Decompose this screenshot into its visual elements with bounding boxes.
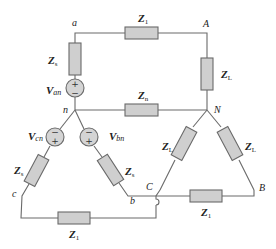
- label-zs-b: Zs: [124, 165, 135, 179]
- voltage-source-van: + −: [66, 79, 84, 98]
- label-zl-a: ZL: [220, 68, 232, 82]
- node-A-label: A: [202, 18, 210, 29]
- impedance-labels: Z1 Zs Zn ZL Zs Zs ZL ZL Z1 Z1: [13, 12, 256, 242]
- voltage-source-vbn: − +: [80, 127, 98, 146]
- label-zl-b: ZL: [244, 140, 256, 154]
- node-b-label: b: [130, 195, 135, 206]
- impedance-zn: [125, 104, 158, 116]
- impedance-zs-a: [69, 43, 81, 75]
- node-B-label: B: [259, 182, 265, 193]
- wire-a-to-z1: [75, 33, 125, 43]
- node-n-label: n: [63, 104, 68, 115]
- wire-z1-to-A: [158, 33, 207, 58]
- wire-vbn-to-zs: [94, 146, 102, 157]
- label-zs-c: Zs: [13, 164, 24, 178]
- wire-vcn-to-zs: [44, 146, 50, 157]
- impedance-zl-b: [217, 127, 243, 161]
- node-C-label: C: [146, 181, 153, 192]
- label-zl-c: ZL: [161, 140, 173, 154]
- voltage-source-vcn: − +: [46, 127, 64, 146]
- node-a-label: a: [72, 17, 77, 28]
- label-z1-cb: Z1: [200, 206, 212, 220]
- wire-N-to-zl-c: [193, 110, 207, 127]
- label-vcn: Vcn: [28, 130, 43, 143]
- van-bottom-sign: −: [71, 88, 79, 98]
- label-z1-bottom: Z1: [68, 228, 80, 242]
- label-zn: Zn: [137, 89, 149, 103]
- wire-z1-to-B: [222, 190, 254, 196]
- wire-zl-c-to-C: [160, 160, 175, 190]
- node-N-label: N: [213, 104, 222, 115]
- vbn-bottom-sign: +: [85, 136, 93, 146]
- wire-zl-b-to-B: [239, 160, 254, 190]
- wire-zs-to-c: [21, 184, 58, 218]
- impedance-zl-c: [171, 127, 197, 161]
- label-van: Van: [46, 84, 61, 97]
- label-zs-a: Zs: [47, 54, 58, 68]
- vcn-bottom-sign: +: [51, 136, 59, 146]
- label-vbn: Vbn: [109, 130, 124, 143]
- impedance-z1-top: [125, 27, 158, 39]
- node-c-label: c: [12, 188, 17, 199]
- label-z1-top: Z1: [137, 12, 149, 26]
- impedance-zs-c: [24, 154, 49, 186]
- impedance-z1-cb: [190, 190, 222, 202]
- wire-crossover-hop: [156, 190, 160, 205]
- impedance-z1-bottom: [58, 212, 90, 224]
- impedance-zl-a: [201, 58, 213, 90]
- three-phase-circuit-diagram: + − − + − + a A n N c b C B Z1 Zs Zn ZL …: [0, 0, 276, 249]
- impedance-zs-b: [97, 154, 123, 186]
- wire-z1-to-crossover: [90, 205, 156, 218]
- wire-n-to-vbn: [75, 110, 84, 129]
